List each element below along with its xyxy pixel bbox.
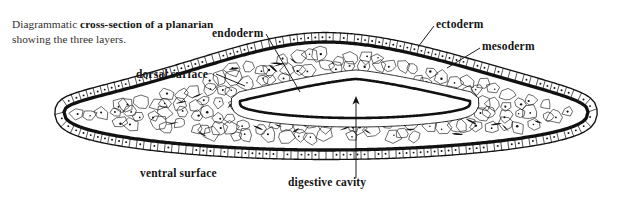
figure-root: Diagrammatic cross-section of a planaria… — [0, 0, 623, 201]
label-ventral-surface: ventral surface — [140, 167, 217, 180]
caption-suffix: showing the three layers. — [12, 33, 126, 45]
label-mesoderm: mesoderm — [482, 40, 535, 53]
label-ectoderm: ectoderm — [436, 18, 484, 31]
label-endoderm: endoderm — [212, 27, 263, 40]
caption-bold: cross-section of a planarian — [80, 18, 213, 30]
label-dorsal-surface: dorsal surface — [136, 68, 208, 81]
label-digestive-cavity: digestive cavity — [288, 176, 366, 189]
caption-prefix: Diagrammatic — [12, 18, 80, 30]
figure-caption: Diagrammatic cross-section of a planaria… — [12, 17, 217, 46]
